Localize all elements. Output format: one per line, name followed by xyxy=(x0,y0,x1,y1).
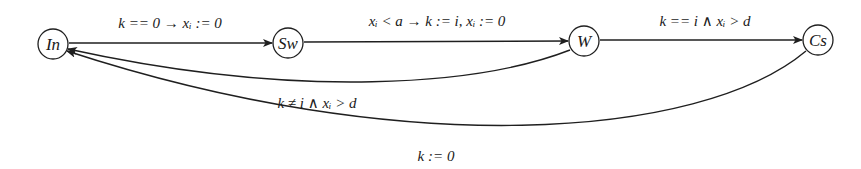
edge-label-in-sw: k == 0 → xᵢ := 0 xyxy=(118,15,222,31)
edge-cs-to-in: k := 0 xyxy=(67,51,806,164)
state-label-in: In xyxy=(45,35,60,54)
edge-in-to-sw: k == 0 → xᵢ := 0 xyxy=(69,15,272,43)
state-label-cs: Cs xyxy=(809,31,827,50)
edge-w-to-in: k ≠ i ∧ xᵢ > d xyxy=(68,49,570,111)
edge-sw-to-w: xᵢ < a → k := i, xᵢ := 0 xyxy=(304,13,568,42)
state-w: W xyxy=(569,26,599,56)
state-diagram: k == 0 → xᵢ := 0 xᵢ < a → k := i, xᵢ := … xyxy=(0,0,861,169)
state-cs: Cs xyxy=(803,25,833,55)
edge-label-cs-in: k := 0 xyxy=(418,148,455,164)
state-in: In xyxy=(38,29,68,59)
edge-w-to-cs: k == i ∧ xᵢ > d xyxy=(600,13,802,40)
state-label-w: W xyxy=(577,32,593,51)
edge-label-w-cs: k == i ∧ xᵢ > d xyxy=(659,13,751,29)
state-sw: Sw xyxy=(273,28,303,58)
state-label-sw: Sw xyxy=(278,34,299,53)
edge-label-w-in: k ≠ i ∧ xᵢ > d xyxy=(277,95,357,111)
edge-label-sw-w: xᵢ < a → k := i, xᵢ := 0 xyxy=(368,13,506,29)
